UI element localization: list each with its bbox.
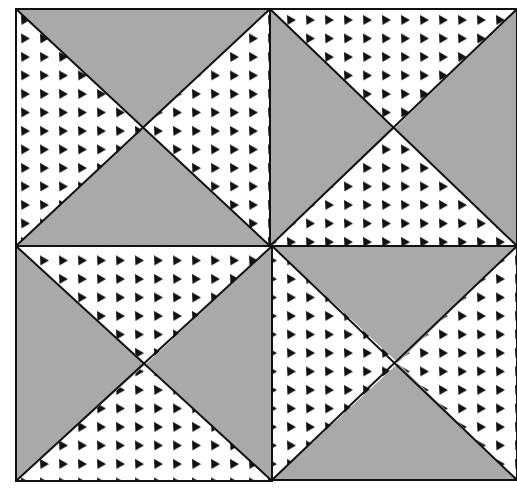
quilt-illustration xyxy=(0,0,517,499)
block-top-left xyxy=(16,9,270,246)
block-bottom-left xyxy=(16,246,272,481)
block-top-right xyxy=(270,9,517,246)
block-bottom-right xyxy=(272,246,517,480)
quilt-blocks xyxy=(16,9,517,481)
quilt-svg xyxy=(0,0,517,499)
